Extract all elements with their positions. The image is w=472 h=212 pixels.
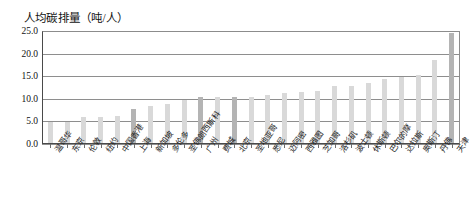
y-axis-tick-label: 15.0: [21, 71, 38, 81]
x-axis-tick-mark: [368, 144, 369, 148]
x-axis-tick-mark: [184, 144, 185, 148]
y-axis-labels: 25.020.015.010.05.00.0: [8, 31, 38, 144]
plot-area: [42, 31, 460, 144]
x-axis-tick-mark: [67, 144, 68, 148]
plot-frame: [42, 31, 460, 144]
x-axis-tick-mark: [301, 144, 302, 148]
x-axis-tick-mark: [418, 144, 419, 148]
carbon-emission-bar-chart: 人均碳排量（吨/人） 25.020.015.010.05.00.0 温哥华东京伦…: [0, 0, 472, 212]
x-axis-tick-mark: [251, 144, 252, 148]
chart-title: 人均碳排量（吨/人）: [24, 11, 128, 25]
x-axis-tick-mark: [50, 144, 51, 148]
y-axis-tick-label: 25.0: [21, 26, 38, 36]
x-axis-labels: 温哥华东京伦敦纽约中国香港上海新加坡多伦多圣佛朗西斯科广州费城北京圣地亚哥悉尼迈…: [42, 149, 460, 211]
y-axis-tick-label: 0.0: [26, 139, 38, 149]
y-axis-tick-label: 20.0: [21, 49, 38, 59]
y-axis-tick-label: 10.0: [21, 94, 38, 104]
x-axis-tick-mark: [134, 144, 135, 148]
y-axis-tick-label: 5.0: [26, 116, 38, 126]
